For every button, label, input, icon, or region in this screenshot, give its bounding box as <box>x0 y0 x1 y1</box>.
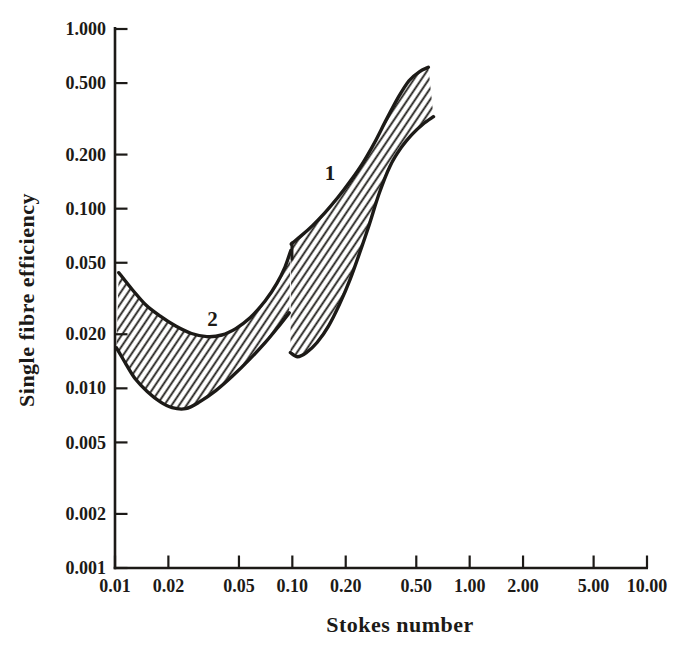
band-1-area <box>290 67 433 356</box>
x-tick-label: 1.00 <box>454 576 486 596</box>
x-tick-label: 5.00 <box>578 576 610 596</box>
single-fibre-efficiency-chart: 120.010.020.050.100.200.501.002.005.0010… <box>0 0 692 649</box>
y-tick-label: 0.010 <box>66 378 107 398</box>
x-tick-label: 0.10 <box>277 576 309 596</box>
y-tick-label: 0.020 <box>66 324 107 344</box>
y-tick-label: 0.050 <box>66 253 107 273</box>
band-1-label: 1 <box>325 161 336 185</box>
x-tick-label: 2.00 <box>507 576 539 596</box>
y-tick-label: 0.500 <box>66 73 107 93</box>
y-tick-label: 0.002 <box>66 504 107 524</box>
y-tick-label: 0.200 <box>66 145 107 165</box>
x-tick-label: 0.01 <box>99 576 131 596</box>
y-tick-label: 0.001 <box>66 558 107 578</box>
x-tick-label: 10.00 <box>627 576 668 596</box>
y-tick-label: 1.000 <box>66 19 107 39</box>
y-tick-label: 0.100 <box>66 199 107 219</box>
band-2-label: 2 <box>207 307 218 331</box>
x-tick-label: 0.05 <box>223 576 255 596</box>
x-tick-label: 0.02 <box>153 576 185 596</box>
y-axis-title: Single fibre efficiency <box>14 193 40 407</box>
x-axis-title: Stokes number <box>326 612 474 638</box>
x-tick-label: 0.20 <box>330 576 362 596</box>
chart-figure: 120.010.020.050.100.200.501.002.005.0010… <box>0 0 692 649</box>
x-tick-label: 0.50 <box>401 576 433 596</box>
y-tick-label: 0.005 <box>66 433 107 453</box>
